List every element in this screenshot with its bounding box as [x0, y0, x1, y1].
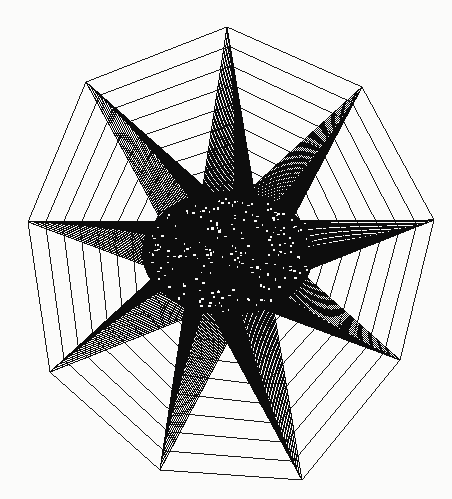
core-pinhole [190, 247, 191, 249]
core-pinhole [157, 227, 159, 229]
core-pinhole [167, 250, 170, 252]
core-pinhole [277, 213, 280, 215]
core-pinhole [208, 305, 211, 307]
core-pinhole [228, 202, 230, 204]
core-pinhole [308, 246, 310, 247]
core-pinhole [242, 202, 244, 204]
core-pinhole [264, 300, 266, 301]
core-pinhole [233, 228, 234, 230]
core-pinhole [241, 238, 244, 239]
core-pinhole [306, 269, 308, 271]
core-pinhole [284, 243, 286, 244]
core-pinhole [304, 266, 307, 268]
core-pinhole [237, 201, 238, 203]
core-pinhole [215, 305, 216, 307]
core-pinhole [248, 299, 250, 301]
core-pinhole [283, 227, 285, 229]
core-pinhole [256, 266, 259, 268]
core-pinhole [240, 252, 243, 254]
core-pinhole [232, 204, 233, 206]
core-pinhole [185, 256, 187, 258]
core-pinhole [247, 205, 250, 207]
core-pinhole [203, 265, 205, 267]
core-pinhole [277, 234, 280, 235]
core-pinhole [210, 220, 211, 221]
core-pinhole [218, 290, 219, 292]
core-pinhole [209, 302, 212, 304]
core-pinhole [294, 226, 296, 227]
core-pinhole [202, 282, 205, 284]
core-pinhole [290, 251, 292, 253]
core-pinhole [183, 293, 185, 295]
core-pinhole [199, 300, 202, 302]
core-pinhole [252, 214, 253, 216]
core-pinhole [267, 273, 269, 275]
core-pinhole [239, 261, 240, 263]
core-pinhole [283, 233, 285, 235]
core-pinhole [234, 218, 236, 219]
core-pinhole [158, 278, 160, 279]
core-pinhole [209, 249, 211, 251]
core-pinhole [262, 224, 263, 225]
core-pinhole [178, 297, 180, 299]
core-pinhole [299, 257, 301, 259]
core-pinhole [183, 283, 184, 284]
core-pinhole [219, 302, 220, 304]
core-pinhole [184, 250, 185, 252]
core-pinhole [237, 257, 239, 258]
core-pinhole [245, 252, 247, 254]
core-pinhole [299, 272, 302, 274]
core-pinhole [259, 276, 260, 278]
artwork-canvas: Nine-pointed star chord figure [0, 0, 452, 499]
core-pinhole [228, 295, 231, 297]
core-pinhole [235, 251, 238, 252]
core-pinhole [250, 267, 252, 268]
core-pinhole [266, 230, 268, 231]
core-pinhole [273, 249, 275, 251]
core-pinhole [175, 238, 177, 239]
core-pinhole [178, 256, 180, 258]
core-pinhole [260, 269, 261, 270]
core-pinhole [160, 246, 161, 248]
core-pinhole [268, 288, 270, 289]
core-pinhole [252, 259, 254, 260]
core-pinhole [300, 229, 302, 231]
core-pinhole [211, 292, 214, 294]
core-pinhole [211, 227, 214, 229]
core-pinhole [243, 219, 245, 221]
star-polygon-figure: Nine-pointed star chord figure [0, 0, 452, 499]
core-pinhole [200, 211, 202, 212]
core-pinhole [209, 211, 210, 213]
core-pinhole [230, 253, 233, 255]
core-pinhole [267, 209, 268, 211]
core-pinhole [232, 289, 235, 291]
core-pinhole [271, 244, 273, 246]
core-pinhole [234, 259, 236, 261]
core-pinhole [256, 227, 259, 228]
core-pinhole [213, 251, 214, 253]
core-pinhole [268, 239, 271, 241]
core-pinhole [154, 250, 157, 252]
core-pinhole [200, 216, 202, 218]
core-pinhole [251, 203, 253, 205]
core-pinhole [284, 277, 286, 279]
core-pinhole [192, 212, 195, 214]
core-pinhole [152, 253, 153, 254]
core-pinhole [293, 270, 296, 272]
core-pinhole [187, 212, 189, 214]
core-pinhole [175, 225, 176, 227]
core-pinhole [149, 252, 150, 254]
core-pinhole [231, 224, 233, 225]
core-pinhole [265, 263, 268, 264]
core-mass [142, 191, 314, 315]
core-pinhole [218, 201, 220, 202]
core-pinhole [274, 212, 277, 214]
core-pinhole [167, 256, 169, 257]
core-pinhole [224, 236, 226, 237]
core-pinhole [254, 220, 257, 222]
core-pinhole [278, 286, 281, 288]
core-pinhole [201, 272, 203, 273]
core-pinhole [210, 252, 212, 254]
core-pinhole [241, 232, 242, 234]
core-pinhole [245, 211, 247, 213]
